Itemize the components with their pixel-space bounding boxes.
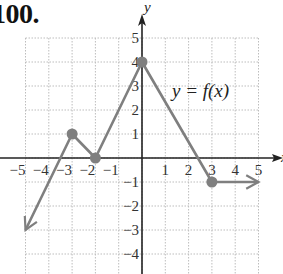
data-point [67, 129, 78, 140]
data-point [137, 57, 148, 68]
x-tick-label: 1 [162, 162, 170, 178]
y-tick-label: 2 [132, 102, 140, 118]
y-tick-label: −2 [123, 198, 139, 214]
data-point [90, 153, 101, 164]
y-tick-label: −1 [123, 174, 139, 190]
x-tick-label: 4 [231, 162, 239, 178]
y-tick-label: 1 [132, 126, 140, 142]
function-label: y = f(x) [170, 80, 229, 102]
x-tick-label: −4 [33, 162, 49, 178]
x-tick-label: −5 [10, 162, 26, 178]
x-tick-label: −2 [79, 162, 95, 178]
y-axis-label: y [142, 0, 151, 15]
x-axis-label: x [280, 149, 283, 165]
x-tick-label: 2 [185, 162, 193, 178]
y-tick-label: −3 [123, 222, 139, 238]
x-tick-label: 5 [255, 162, 263, 178]
y-tick-label: 5 [132, 30, 140, 46]
data-point [206, 177, 217, 188]
y-tick-label: −4 [123, 246, 139, 262]
x-tick-label: −1 [103, 162, 119, 178]
function-graph: xy−5−4−3−2−11234554321−1−2−3−4y = f(x) [0, 0, 283, 274]
